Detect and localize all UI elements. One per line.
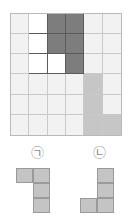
grid-cell[interactable] [48, 34, 66, 54]
grid-cell[interactable] [103, 95, 121, 115]
piece-cell-filled [97, 198, 114, 213]
grid-cell[interactable] [103, 34, 121, 54]
grid-cell[interactable] [84, 95, 102, 115]
grid-cell[interactable] [84, 74, 102, 94]
grid-cell[interactable] [48, 95, 66, 115]
piece-label-row: ㉠ ㉡ [0, 144, 131, 164]
grid-cell[interactable] [29, 74, 47, 94]
grid-cell[interactable] [66, 14, 84, 34]
piece-shape-b[interactable] [80, 168, 114, 213]
grid-cell[interactable] [29, 115, 47, 135]
grid-cell[interactable] [11, 95, 29, 115]
piece-cell-filled [97, 183, 114, 198]
grid-cell[interactable] [66, 34, 84, 54]
piece-cell-filled [33, 183, 50, 198]
grid-cell[interactable] [48, 14, 66, 34]
grid-cell[interactable] [84, 54, 102, 74]
grid-cell[interactable] [84, 14, 102, 34]
grid-cell[interactable] [11, 14, 29, 34]
grid-cell[interactable] [11, 115, 29, 135]
piece-cell-filled [16, 168, 33, 183]
grid-cell[interactable] [48, 74, 66, 94]
grid-cell[interactable] [29, 54, 47, 74]
grid-cell[interactable] [29, 14, 47, 34]
grid-cell[interactable] [103, 54, 121, 74]
piece-cell-filled [80, 198, 97, 213]
grid-cell[interactable] [66, 115, 84, 135]
grid-cell[interactable] [48, 115, 66, 135]
piece-cell-filled [33, 168, 50, 183]
piece-label-a: ㉠ [28, 144, 46, 162]
grid-cell[interactable] [66, 95, 84, 115]
grid-cell[interactable] [11, 54, 29, 74]
piece-cell-empty [16, 183, 33, 198]
piece-cell-filled [33, 198, 50, 213]
grid-cell[interactable] [103, 14, 121, 34]
grid-cell[interactable] [66, 74, 84, 94]
piece-cell-filled [97, 168, 114, 183]
grid-cell[interactable] [84, 34, 102, 54]
puzzle-figure: ㉠ ㉡ [0, 0, 131, 218]
grid-cell[interactable] [48, 54, 66, 74]
piece-shapes [0, 168, 131, 218]
piece-label-b: ㉡ [90, 144, 108, 162]
grid-cell[interactable] [84, 115, 102, 135]
piece-cell-empty [80, 183, 97, 198]
grid-cell[interactable] [103, 115, 121, 135]
grid-cell[interactable] [66, 54, 84, 74]
piece-cell-empty [16, 198, 33, 213]
grid-cell[interactable] [29, 95, 47, 115]
grid-cell[interactable] [29, 34, 47, 54]
grid-cell[interactable] [11, 74, 29, 94]
piece-shape-a[interactable] [16, 168, 50, 213]
grid-cell[interactable] [11, 34, 29, 54]
grid-cell[interactable] [103, 74, 121, 94]
piece-cell-empty [80, 168, 97, 183]
puzzle-grid[interactable] [10, 13, 122, 136]
